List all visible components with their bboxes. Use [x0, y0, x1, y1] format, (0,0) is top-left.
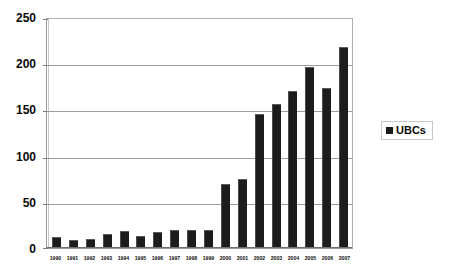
bar — [187, 230, 196, 247]
x-axis-tick-label: 2002 — [251, 254, 268, 266]
x-axis-tick-label: 2003 — [268, 254, 285, 266]
y-axis-tick-label: 100 — [16, 152, 36, 162]
bar-slot — [166, 19, 183, 247]
bar-slot — [234, 19, 251, 247]
bar-slot — [335, 19, 352, 247]
bar-slot — [301, 19, 318, 247]
x-axis-line — [47, 247, 352, 248]
y-axis-labels: 250 200 150 100 50 0 — [0, 0, 42, 278]
y-axis-tick-label: 50 — [23, 198, 36, 208]
bar — [52, 237, 61, 247]
x-axis-tick-label: 1996 — [149, 254, 166, 266]
legend: UBCs — [381, 121, 433, 140]
y-axis-tick — [43, 248, 48, 249]
bar-slot — [149, 19, 166, 247]
x-axis-tick-label: 1997 — [166, 254, 183, 266]
y-axis-tick-label: 150 — [16, 105, 36, 115]
x-axis-tick-label: 1994 — [115, 254, 132, 266]
x-axis-tick-label: 1999 — [200, 254, 217, 266]
x-axis-tick-label: 2007 — [336, 254, 353, 266]
bar-slot — [217, 19, 234, 247]
legend-swatch-icon — [386, 127, 393, 134]
bar-slot — [268, 19, 285, 247]
y-axis-tick-label: 0 — [29, 244, 36, 254]
x-axis-tick-label: 2000 — [217, 254, 234, 266]
bar — [288, 91, 297, 247]
bar-slot — [284, 19, 301, 247]
bar — [204, 230, 213, 247]
x-axis-tick-label: 2004 — [285, 254, 302, 266]
x-axis-labels: 1990199119921993199419951996199719981999… — [47, 254, 353, 266]
bar-series-ubcs — [48, 19, 352, 247]
plot-area — [46, 18, 353, 249]
bar — [339, 47, 348, 247]
x-axis-tick-label: 1990 — [47, 254, 64, 266]
x-axis-tick-label: 2006 — [319, 254, 336, 266]
x-axis-tick-label: 1998 — [183, 254, 200, 266]
bar-slot — [116, 19, 133, 247]
x-axis-tick-label: 2001 — [234, 254, 251, 266]
bar-chart: 250 200 150 100 50 0 1990199119921993199… — [0, 0, 453, 278]
bar-slot — [251, 19, 268, 247]
bar — [272, 104, 281, 247]
bar-slot — [82, 19, 99, 247]
x-axis-tick-label: 1991 — [64, 254, 81, 266]
bar — [170, 230, 179, 247]
bar — [221, 184, 230, 247]
x-axis-tick-label: 1992 — [81, 254, 98, 266]
bar-slot — [65, 19, 82, 247]
x-axis-tick-label: 1993 — [98, 254, 115, 266]
y-axis-tick-label: 250 — [16, 13, 36, 23]
bar-slot — [99, 19, 116, 247]
x-axis-tick-label: 1995 — [132, 254, 149, 266]
bar — [238, 179, 247, 247]
bar — [69, 240, 78, 247]
bar — [103, 234, 112, 247]
bar — [305, 67, 314, 247]
bar — [153, 232, 162, 247]
legend-label: UBCs — [396, 125, 426, 136]
y-axis-tick-label: 200 — [16, 59, 36, 69]
bar-slot — [200, 19, 217, 247]
x-axis-tick-label: 2005 — [302, 254, 319, 266]
bar — [255, 114, 264, 247]
bar — [136, 236, 145, 247]
bar-slot — [318, 19, 335, 247]
bar — [322, 88, 331, 247]
bar-slot — [48, 19, 65, 247]
bar-slot — [183, 19, 200, 247]
bar-slot — [132, 19, 149, 247]
bar — [86, 239, 95, 247]
bar — [120, 231, 129, 247]
